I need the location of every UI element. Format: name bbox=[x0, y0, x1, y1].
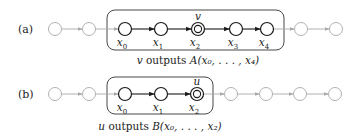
inactive-node bbox=[83, 88, 96, 101]
node-circle-icon bbox=[83, 23, 96, 36]
output-node: vx2 bbox=[190, 10, 205, 51]
inactive-node bbox=[329, 88, 342, 101]
row-label: (b) bbox=[18, 88, 34, 101]
window-node: x4 bbox=[259, 23, 274, 51]
inactive-node bbox=[330, 23, 343, 36]
inactive-node bbox=[49, 88, 62, 101]
node-circle-icon bbox=[119, 23, 132, 36]
node-circle-icon bbox=[191, 88, 204, 101]
node-marker: v bbox=[195, 10, 201, 22]
node-circle-icon bbox=[225, 88, 238, 101]
window-node: x1 bbox=[153, 23, 168, 51]
node-label: x0 bbox=[117, 101, 127, 116]
inactive-node bbox=[49, 23, 62, 36]
node-label: x0 bbox=[117, 36, 127, 51]
inactive-node bbox=[295, 23, 308, 36]
window-node: x3 bbox=[228, 23, 243, 51]
node-circle-icon bbox=[261, 23, 274, 36]
node-label: x2 bbox=[190, 36, 200, 51]
window-node: x0 bbox=[117, 88, 132, 116]
node-circle-icon bbox=[49, 88, 62, 101]
inactive-node bbox=[83, 23, 96, 36]
node-label: x4 bbox=[259, 36, 270, 51]
inactive-node bbox=[260, 88, 273, 101]
row-label: (a) bbox=[18, 23, 33, 36]
node-circle-icon bbox=[295, 23, 308, 36]
node-circle-icon bbox=[155, 88, 168, 101]
node-label: x2 bbox=[189, 101, 199, 116]
diagram-row-b: (b)x0x1ux2u outputs B(x₀, . . . , x₂) bbox=[18, 75, 342, 132]
node-circle-icon bbox=[294, 88, 307, 101]
node-circle-icon bbox=[260, 88, 273, 101]
node-circle-icon bbox=[49, 23, 62, 36]
node-circle-icon bbox=[155, 23, 168, 36]
node-circle-icon bbox=[330, 23, 343, 36]
window-node: x1 bbox=[153, 88, 168, 116]
node-circle-icon bbox=[192, 23, 205, 36]
row-caption: v outputs A(x₀, . . . , x₄) bbox=[137, 54, 259, 66]
node-circle-icon bbox=[230, 23, 243, 36]
output-node: ux2 bbox=[189, 75, 204, 116]
node-label: x1 bbox=[153, 36, 163, 51]
node-label: x1 bbox=[153, 101, 163, 116]
row-caption: u outputs B(x₀, . . . , x₂) bbox=[98, 120, 221, 132]
diagram-row-a: (a)x0x1vx2x3x4v outputs A(x₀, . . . , x₄… bbox=[18, 10, 343, 66]
inactive-node bbox=[294, 88, 307, 101]
path-diagram: (a)x0x1vx2x3x4v outputs A(x₀, . . . , x₄… bbox=[0, 0, 361, 138]
window-node: x0 bbox=[117, 23, 132, 51]
node-marker: u bbox=[194, 75, 201, 87]
node-circle-icon bbox=[83, 88, 96, 101]
node-label: x3 bbox=[228, 36, 238, 51]
node-circle-icon bbox=[119, 88, 132, 101]
node-circle-icon bbox=[329, 88, 342, 101]
inactive-node bbox=[225, 88, 238, 101]
